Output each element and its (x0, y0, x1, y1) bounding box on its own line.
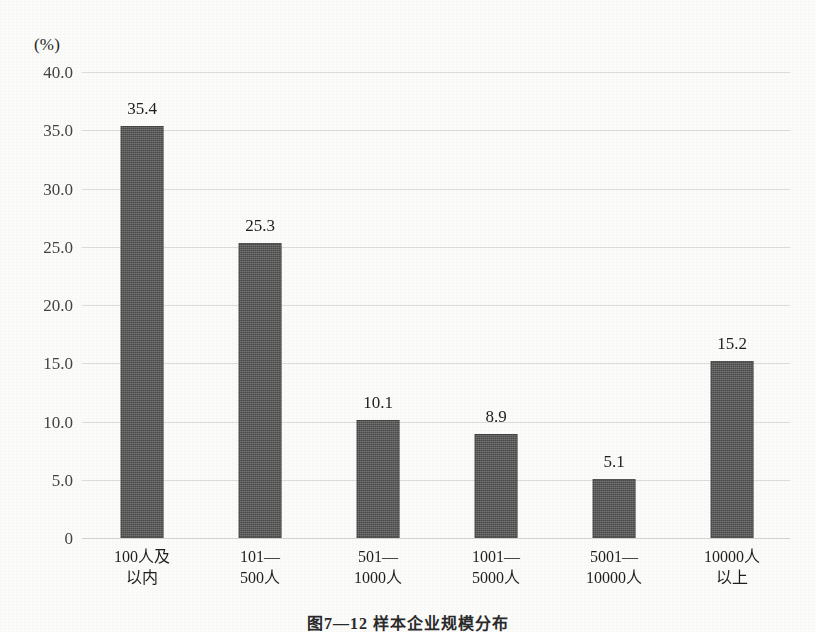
x-axis-category-line-2: 500人 (201, 567, 319, 588)
x-axis-category-line-2: 10000人 (555, 567, 673, 588)
x-axis-category-label: 5001—10000人 (555, 546, 673, 588)
x-axis-category-label: 101—500人 (201, 546, 319, 588)
bar-value-label: 10.1 (363, 394, 393, 411)
bar[interactable] (357, 420, 400, 538)
bar[interactable] (711, 361, 754, 538)
x-axis-category-label: 10000人以上 (673, 546, 791, 588)
y-axis-tick-label: 5.0 (52, 471, 73, 488)
bar-slot: 25.3 (201, 72, 319, 538)
x-axis-category-label: 501—1000人 (319, 546, 437, 588)
x-axis-category-line-1: 10000人 (704, 548, 760, 565)
bar-value-label: 35.4 (127, 100, 157, 117)
y-axis-tick-label: 15.0 (43, 355, 73, 372)
x-axis-category-line-2: 5000人 (437, 567, 555, 588)
y-axis-tick-label: 35.0 (43, 122, 73, 139)
y-axis-unit-label: (%) (34, 36, 60, 53)
bar-slot: 15.2 (673, 72, 791, 538)
bar[interactable] (239, 243, 282, 538)
bar-slot: 5.1 (555, 72, 673, 538)
y-axis-tick-label: 40.0 (43, 64, 73, 81)
x-axis-category-line-1: 501— (358, 548, 398, 565)
y-axis-tick-label: 30.0 (43, 180, 73, 197)
bar[interactable] (475, 434, 518, 538)
x-axis-category-line-1: 100人及 (114, 548, 170, 565)
x-axis-category-line-1: 101— (240, 548, 280, 565)
x-axis-category-label: 1001—5000人 (437, 546, 555, 588)
bar-value-label: 8.9 (485, 408, 506, 425)
bars-group: 35.425.310.18.95.115.2 (82, 72, 790, 538)
x-axis-category-line-1: 1001— (472, 548, 520, 565)
y-axis-tick-label: 0 (65, 530, 74, 547)
bar[interactable] (121, 126, 164, 538)
x-axis-labels-group: 100人及以内101—500人501—1000人1001—5000人5001—1… (82, 546, 790, 606)
plot-area: 40.035.030.025.020.015.010.05.00 35.425.… (82, 72, 790, 538)
x-axis-category-label: 100人及以内 (83, 546, 201, 588)
y-axis-tick-label: 10.0 (43, 413, 73, 430)
x-axis-category-line-2: 以上 (673, 567, 791, 588)
figure-caption: 图7—12 样本企业规模分布 (0, 614, 816, 632)
x-axis-category-line-1: 5001— (590, 548, 638, 565)
bar-value-label: 15.2 (717, 335, 747, 352)
x-axis-category-line-2: 1000人 (319, 567, 437, 588)
y-axis-tick-label: 25.0 (43, 238, 73, 255)
bar-slot: 10.1 (319, 72, 437, 538)
axis-baseline: 0 (82, 538, 790, 539)
figure-page: (%) 40.035.030.025.020.015.010.05.00 35.… (0, 0, 816, 632)
bar-slot: 35.4 (83, 72, 201, 538)
bar[interactable] (593, 479, 636, 538)
bar-slot: 8.9 (437, 72, 555, 538)
y-axis-tick-label: 20.0 (43, 297, 73, 314)
x-axis-category-line-2: 以内 (83, 567, 201, 588)
bar-value-label: 25.3 (245, 217, 275, 234)
bar-value-label: 5.1 (603, 453, 624, 470)
